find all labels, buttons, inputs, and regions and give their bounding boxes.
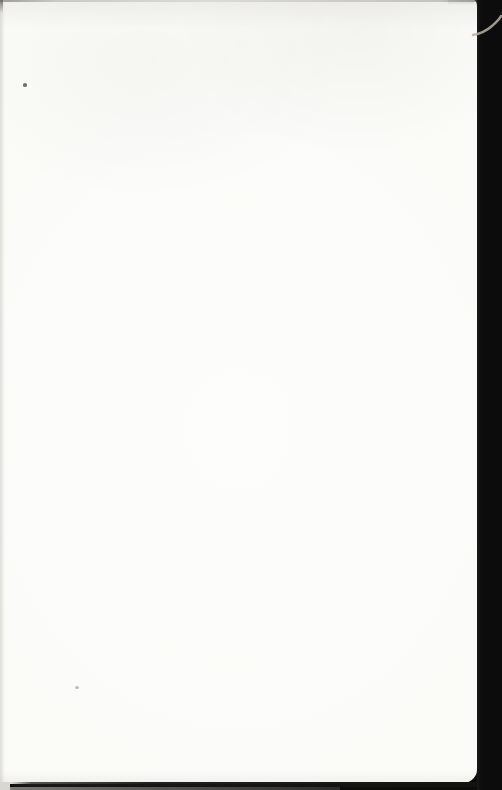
scanner-background-band — [477, 0, 502, 790]
top-right-smudge — [448, 0, 474, 5]
ink-speck — [23, 83, 27, 87]
top-edge-shadow — [0, 0, 477, 2]
left-edge-shading — [0, 0, 5, 784]
blank-book-page — [0, 0, 477, 784]
ink-speck-faint — [75, 686, 79, 689]
scanned-page-frame — [0, 0, 502, 790]
bottom-left-gap — [0, 782, 10, 790]
